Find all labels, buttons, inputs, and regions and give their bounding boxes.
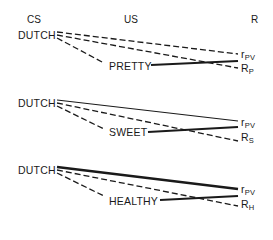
p1-cs-to-rpv-line [57,32,238,54]
p1-r-bottom-label: RP [241,63,254,74]
p3-cs-label: DUTCH [18,165,56,176]
p2-us-label: SWEET [109,127,147,138]
p2-r-bottom-symbol: R [241,131,249,143]
p3-r-top-sub: PV [245,188,255,197]
p3-r-bottom-label: RH [241,199,254,210]
p1-r-top-label: rPV [241,49,255,60]
p3-cs-to-us-line [57,173,104,196]
p1-r-bottom-symbol: R [241,62,249,74]
p2-cs-label: DUTCH [18,98,56,109]
p3-us-label: HEALTHY [109,196,158,207]
p2-r-top-label: rPV [241,117,255,128]
p1-r-top-sub: PV [245,53,255,62]
p2-r-bottom-label: RS [241,132,254,143]
p3-r-bottom-sub: H [249,203,255,212]
p1-cs-label: DUTCH [18,30,56,41]
p1-us-to-r-line [151,61,238,65]
p2-cs-to-rs-line [57,103,238,141]
p2-r-top-sub: PV [245,121,255,130]
p3-r-top-label: rPV [241,184,255,195]
p1-r-bottom-sub: P [249,67,254,76]
p3-r-bottom-symbol: R [241,198,249,210]
p2-cs-to-us-line [57,106,104,129]
p2-cs-to-rpv-line [57,100,238,121]
p2-r-bottom-sub: S [249,136,254,145]
p1-us-label: PRETTY [109,61,152,72]
p3-us-to-r-line [160,196,238,200]
